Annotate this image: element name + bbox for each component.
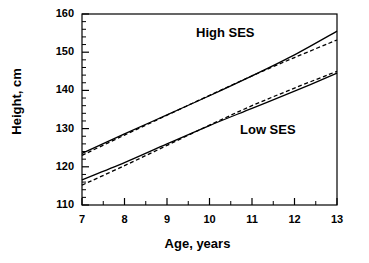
- annotation-low-ses: Low SES: [240, 122, 296, 137]
- series-high-ses-observed: [82, 31, 337, 153]
- series-low-ses-predicted: [82, 71, 337, 185]
- chart-figure: Height, cm Age, years High SES Low SES 1…: [0, 0, 369, 263]
- x-axis-label: Age, years: [0, 236, 369, 251]
- x-tick-label: 13: [322, 213, 352, 225]
- series-high-ses-predicted: [82, 40, 337, 155]
- series-low-ses-observed: [82, 73, 337, 180]
- y-tick-label: 120: [40, 160, 74, 172]
- annotation-high-ses: High SES: [196, 25, 255, 40]
- y-tick-label: 140: [40, 83, 74, 95]
- plot-frame: [82, 14, 337, 205]
- y-tick-label: 110: [40, 198, 74, 210]
- x-tick-label: 9: [152, 213, 182, 225]
- x-tick-label: 10: [195, 213, 225, 225]
- x-tick-label: 8: [110, 213, 140, 225]
- x-tick-label: 11: [237, 213, 267, 225]
- y-axis-label: Height, cm: [9, 52, 24, 152]
- data-series-layer: [82, 31, 337, 185]
- x-tick-label: 7: [67, 213, 97, 225]
- y-tick-label: 150: [40, 45, 74, 57]
- y-tick-label: 130: [40, 122, 74, 134]
- x-tick-label: 12: [280, 213, 310, 225]
- axis-ticks: [82, 14, 337, 205]
- x-axis-label-text: Age, years: [139, 236, 231, 251]
- y-tick-label: 160: [40, 7, 74, 19]
